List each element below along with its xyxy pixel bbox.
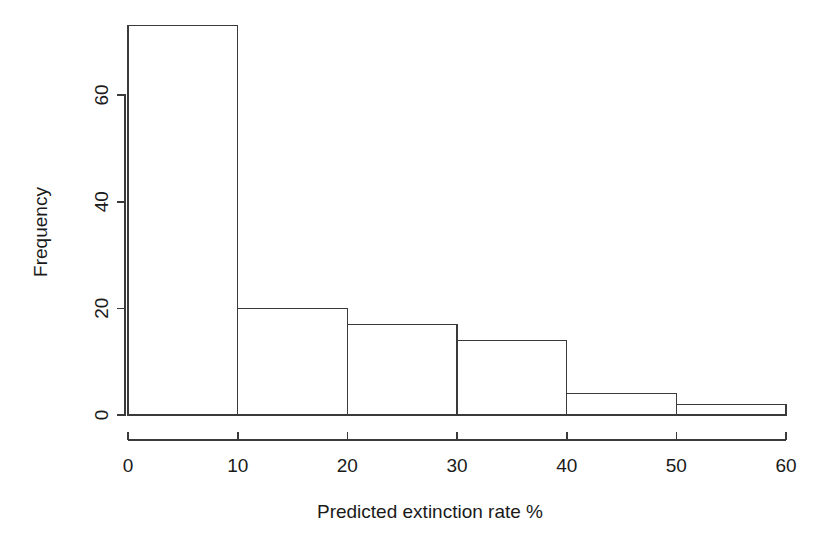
x-tick-label: 40 (556, 455, 577, 476)
histogram-bar (128, 26, 238, 415)
x-tick-label: 50 (666, 455, 687, 476)
y-axis-line (117, 95, 125, 415)
y-axis (117, 95, 125, 415)
x-tick-label: 30 (446, 455, 467, 476)
x-axis-title: Predicted extinction rate % (317, 501, 543, 522)
histogram-figure: 0 20 40 60 0 10 20 30 40 50 60 Predicted… (0, 0, 818, 545)
x-axis (128, 432, 786, 440)
y-tick-labels: 0 20 40 60 (91, 84, 112, 420)
x-tick-label: 0 (123, 455, 134, 476)
histogram-plot: 0 20 40 60 0 10 20 30 40 50 60 Predicted… (0, 0, 818, 545)
x-tick-labels: 0 10 20 30 40 50 60 (123, 455, 797, 476)
histogram-bar (567, 394, 677, 415)
y-tick-label: 0 (91, 410, 112, 421)
y-tick-label: 60 (91, 84, 112, 105)
x-tick-label: 60 (775, 455, 796, 476)
y-tick-label: 20 (91, 298, 112, 319)
histogram-bar (238, 308, 348, 415)
y-tick-label: 40 (91, 191, 112, 212)
x-tick-label: 20 (337, 455, 358, 476)
bars-group (128, 26, 786, 415)
histogram-bar (457, 340, 567, 415)
histogram-bar (676, 404, 786, 415)
y-axis-title: Frequency (30, 187, 51, 277)
x-tick-label: 10 (227, 455, 248, 476)
histogram-bar (347, 324, 457, 415)
